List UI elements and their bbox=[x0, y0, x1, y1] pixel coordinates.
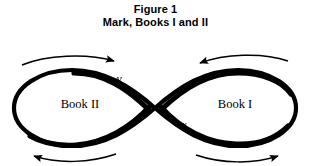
lemniscate-diagram: Book II Book I y x bbox=[0, 36, 311, 166]
lobe-label-book-i: Book I bbox=[218, 97, 252, 111]
bottom-right-arrow bbox=[196, 155, 278, 162]
top-right-arrow bbox=[200, 55, 288, 63]
figure-caption-line-1: Figure 1 bbox=[0, 3, 311, 16]
figure-caption-line-2: Mark, Books I and II bbox=[0, 16, 311, 29]
point-label-y: y bbox=[115, 73, 122, 86]
point-label-x: x bbox=[180, 119, 187, 131]
figure-caption: Figure 1 Mark, Books I and II bbox=[0, 3, 311, 29]
figure-container: Figure 1 Mark, Books I and II bbox=[0, 0, 311, 166]
top-left-arrow bbox=[22, 56, 114, 65]
right-lobe-lower-accent bbox=[160, 106, 288, 144]
lobe-label-book-ii: Book II bbox=[61, 97, 100, 111]
lemniscate-curve bbox=[14, 70, 296, 146]
bottom-left-arrow bbox=[34, 154, 116, 161]
left-lobe-lower-accent bbox=[30, 106, 150, 145]
